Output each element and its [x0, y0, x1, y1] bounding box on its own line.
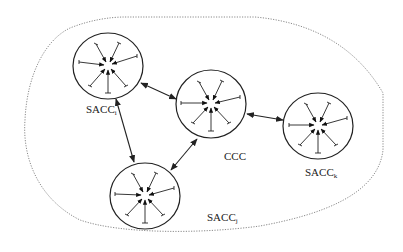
node-sacc-i — [73, 33, 143, 99]
node-sacc-j — [110, 163, 180, 229]
link-sacc-i-ccc — [141, 83, 176, 99]
label-sacc-j-sub: j — [236, 217, 238, 225]
link-ccc-sacc-j — [171, 139, 197, 170]
label-ccc: CCC — [224, 151, 246, 162]
label-ccc-base: CCC — [224, 150, 246, 162]
label-sacc-k: SACCk — [305, 167, 337, 180]
node-ccc — [176, 70, 246, 138]
node-sacc-k — [283, 93, 353, 159]
link-ccc-sacc-k — [247, 114, 283, 120]
label-sacc-k-base: SACC — [305, 166, 334, 178]
label-sacc-i-sub: i — [115, 109, 117, 117]
network-diagram — [0, 0, 403, 252]
link-sacc-i-sacc-j — [116, 99, 134, 162]
label-sacc-k-sub: k — [334, 172, 338, 180]
label-sacc-j: SACCj — [207, 212, 238, 225]
label-sacc-j-base: SACC — [207, 211, 236, 223]
label-sacc-i: SACCi — [86, 104, 117, 117]
label-sacc-i-base: SACC — [86, 103, 115, 115]
